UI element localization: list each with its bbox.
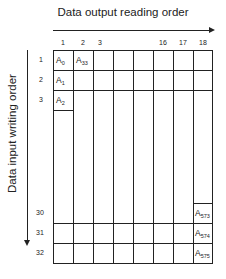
grid-line — [53, 50, 213, 51]
grid-line — [212, 50, 213, 263]
grid-line — [193, 50, 194, 263]
cell-r3c1: A2 — [56, 95, 65, 106]
grid-line — [93, 50, 94, 263]
cell-r2c1: A1 — [56, 75, 65, 86]
grid-line — [53, 243, 213, 244]
cell-r1c1: A0 — [56, 55, 65, 66]
grid-line — [53, 223, 213, 224]
grid-line — [153, 50, 154, 263]
grid-line — [73, 50, 74, 263]
grid-line — [53, 70, 213, 71]
grid-line — [53, 90, 213, 91]
grid-line — [53, 263, 213, 264]
memory-grid — [0, 0, 226, 279]
grid-line — [113, 50, 114, 263]
cell-r31c18: A574 — [195, 228, 210, 239]
grid-line — [133, 50, 134, 263]
grid-line — [53, 110, 73, 111]
cell-r32c18: A575 — [195, 248, 210, 259]
cell-r30c18: A573 — [195, 208, 210, 219]
grid-line — [193, 203, 213, 204]
grid-line — [173, 50, 174, 263]
cell-r1c2: A33 — [76, 55, 88, 66]
grid-line — [53, 50, 54, 263]
